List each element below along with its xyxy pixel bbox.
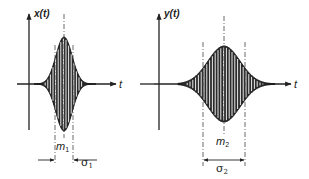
left-pulse-waveform [34, 37, 96, 131]
signal-diagram: x(t) t m1 σ1 y(t) t m2 σ2 [0, 0, 309, 179]
left-y-axis-label: x(t) [33, 8, 50, 19]
right-sigma-label: σ2 [216, 162, 228, 176]
right-mean-label: m2 [216, 135, 229, 148]
left-sigma-label: σ1 [81, 156, 93, 170]
left-t-axis-label: t [119, 78, 123, 90]
right-panel: y(t) t m2 σ2 [154, 8, 298, 176]
right-t-axis-label: t [294, 78, 298, 90]
left-mean-label: m1 [56, 140, 69, 153]
left-panel: x(t) t m1 σ1 [17, 8, 123, 170]
right-y-axis-label: y(t) [163, 8, 180, 19]
right-pulse-waveform [178, 46, 275, 122]
